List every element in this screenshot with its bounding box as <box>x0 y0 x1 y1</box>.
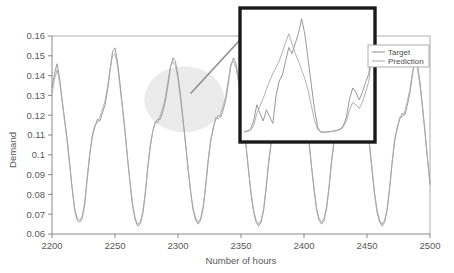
y-tick-label: 0.13 <box>27 90 46 101</box>
x-tick-label: 2400 <box>293 240 314 251</box>
x-tick-label: 2350 <box>230 240 251 251</box>
y-tick-label: 0.06 <box>27 228 46 239</box>
y-tick-label: 0.12 <box>27 110 46 121</box>
x-tick-label: 2450 <box>356 240 377 251</box>
chart-background <box>0 0 454 273</box>
x-tick-label: 2200 <box>41 240 62 251</box>
y-tick-label: 0.14 <box>27 70 46 81</box>
region-of-interest-ellipse <box>144 66 224 132</box>
legend-label-target: Target <box>388 48 411 57</box>
y-tick-label: 0.1 <box>32 149 45 160</box>
y-tick-label: 0.09 <box>27 169 46 180</box>
y-axis-title: Demand <box>7 132 18 168</box>
x-tick-label: 2500 <box>419 240 440 251</box>
y-tick-label: 0.16 <box>27 30 46 41</box>
y-tick-label: 0.08 <box>27 189 46 200</box>
y-tick-label: 0.11 <box>27 129 45 140</box>
legend-label-prediction: Prediction <box>388 57 424 66</box>
y-tick-label: 0.07 <box>27 209 46 220</box>
y-tick-label: 0.15 <box>27 50 46 61</box>
inset-border <box>240 8 375 142</box>
chart-figure: 0.060.070.080.090.10.110.120.130.140.150… <box>0 0 454 273</box>
x-tick-label: 2250 <box>104 240 125 251</box>
magnified-inset <box>240 8 375 142</box>
x-tick-label: 2300 <box>167 240 188 251</box>
x-axis-title: Number of hours <box>206 255 277 266</box>
demand-forecast-line-chart: 0.060.070.080.090.10.110.120.130.140.150… <box>0 0 454 273</box>
legend[interactable]: Target Prediction <box>368 45 429 67</box>
